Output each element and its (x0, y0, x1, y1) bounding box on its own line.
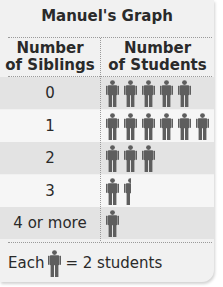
student-icons (106, 210, 119, 237)
person-icon (124, 113, 137, 140)
person-icon (160, 80, 173, 107)
person-icon (106, 178, 119, 205)
person-icon (124, 145, 137, 172)
pictograph-row: 3 (0, 175, 214, 207)
pictograph-row: 0 (0, 77, 214, 109)
student-icons (106, 145, 155, 172)
student-icons (106, 178, 131, 205)
person-icon (178, 80, 191, 107)
person-icon (142, 80, 155, 107)
divider (8, 242, 212, 243)
header-line: of Siblings (5, 57, 94, 74)
half-person-icon (124, 178, 131, 205)
graph-title: Manuel's Graph (0, 0, 214, 32)
person-icon (106, 80, 119, 107)
person-icon (106, 113, 119, 140)
column-header-students: Number of Students (101, 38, 214, 76)
siblings-label: 4 or more (0, 207, 100, 239)
person-icon (196, 113, 209, 140)
header-line: Number (16, 40, 83, 57)
person-icon (142, 145, 155, 172)
student-icons (106, 113, 209, 140)
key-suffix: = 2 students (65, 254, 162, 272)
pictograph-row: 2 (0, 142, 214, 174)
person-icon (142, 113, 155, 140)
key-prefix: Each (8, 254, 44, 272)
person-icon (178, 113, 191, 140)
header-line: Number (124, 40, 191, 57)
pictograph-row: 1 (0, 110, 214, 142)
person-icon (160, 113, 173, 140)
column-header-siblings: Number of Siblings (0, 38, 100, 76)
student-icons (106, 80, 191, 107)
person-icon (106, 210, 119, 237)
person-icon (44, 250, 65, 277)
siblings-label: 3 (0, 175, 100, 207)
header-line: of Students (108, 57, 206, 74)
siblings-label: 1 (0, 110, 100, 142)
siblings-label: 0 (0, 77, 100, 109)
person-icon (106, 145, 119, 172)
key: Each = 2 students (8, 248, 162, 278)
siblings-label: 2 (0, 142, 100, 174)
column-divider (100, 38, 101, 241)
pictograph-card: Manuel's Graph Number of Siblings Number… (0, 0, 214, 282)
person-icon (124, 80, 137, 107)
pictograph-row: 4 or more (0, 207, 214, 239)
